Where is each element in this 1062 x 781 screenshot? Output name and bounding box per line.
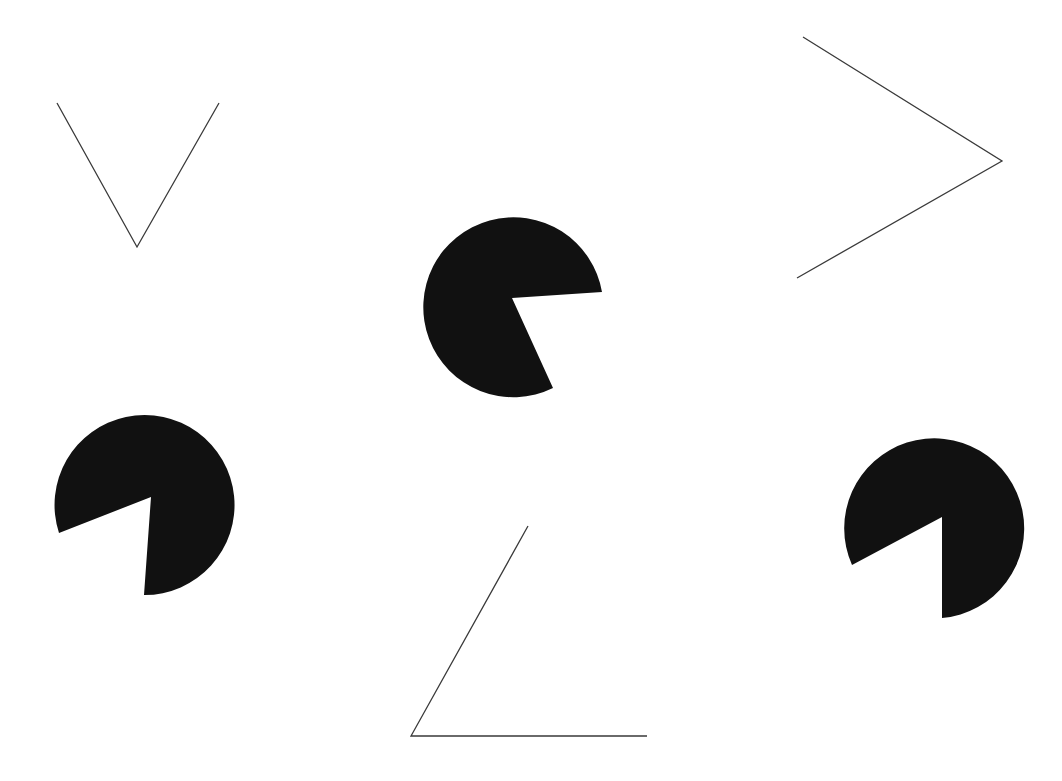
angle-bottom bbox=[411, 526, 647, 736]
angle-v-top-left bbox=[57, 103, 219, 247]
pacman-right bbox=[844, 438, 1024, 618]
pacman-top-center bbox=[423, 217, 602, 397]
illusory-contour-figure bbox=[0, 0, 1062, 781]
pacman-left bbox=[55, 415, 235, 595]
angle-chevron-top-right bbox=[797, 37, 1002, 278]
